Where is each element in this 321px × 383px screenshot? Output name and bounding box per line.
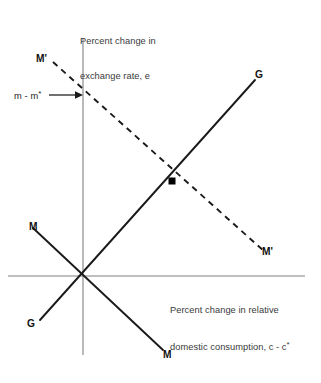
mm-curve: [33, 228, 163, 350]
mm-prime-upper-left-label: M': [36, 52, 47, 65]
gg-lower-left-label: G: [27, 317, 35, 330]
equilibrium-point-marker: [169, 178, 176, 185]
y-axis-title-line-2: exchange rate, e: [80, 71, 156, 83]
money-shift-star-icon: *: [38, 89, 41, 98]
exchange-rate-diagram: Percent change in exchange rate, e Perce…: [0, 0, 321, 383]
mm-prime-lower-right-label: M': [262, 245, 273, 258]
mm-upper-left-label: M: [29, 220, 38, 233]
x-axis-title-line-2: domestic consumption, c - c*: [170, 340, 290, 353]
x-axis-title: Percent change in relative domestic cons…: [170, 281, 290, 378]
money-shift-annotation: m - m*: [14, 89, 41, 102]
x-axis-title-star-icon: *: [287, 340, 290, 349]
gg-upper-right-label: G: [255, 68, 263, 81]
mm-lower-right-label: M: [163, 348, 172, 361]
y-axis-title-line-1: Percent change in: [80, 36, 156, 48]
x-axis-title-line-1: Percent change in relative: [170, 305, 290, 317]
x-axis-title-line-2-text: domestic consumption, c - c: [170, 342, 287, 352]
money-shift-annotation-text: m - m: [14, 91, 38, 101]
y-axis-title: Percent change in exchange rate, e: [80, 12, 156, 107]
